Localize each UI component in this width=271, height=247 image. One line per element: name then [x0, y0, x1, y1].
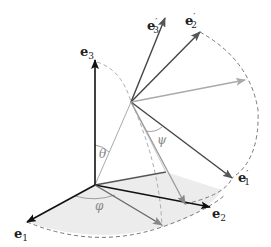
label-theta: θ	[99, 147, 107, 161]
label-e2: e2	[212, 206, 226, 223]
label-e3: e3	[80, 44, 94, 61]
euler-angle-diagram: e3 e1 e2 e′3 e′2 e′1 θ φ ψ	[0, 0, 271, 247]
label-psi: ψ	[157, 133, 167, 147]
label-e3-prime: e′3	[147, 17, 159, 35]
label-e1: e1	[14, 226, 28, 243]
intermediate-arrow	[131, 80, 245, 102]
dashed-arc-right	[200, 32, 258, 178]
label-e2-prime: e′2	[185, 12, 197, 30]
e2p-arrow	[131, 32, 200, 102]
label-phi: φ	[95, 199, 104, 213]
theta-line	[95, 102, 131, 185]
psi-arc	[146, 127, 162, 132]
label-e1-prime: e′1	[238, 169, 250, 187]
e1p-arrow	[131, 102, 232, 178]
dashed-arc-e3	[97, 62, 131, 102]
